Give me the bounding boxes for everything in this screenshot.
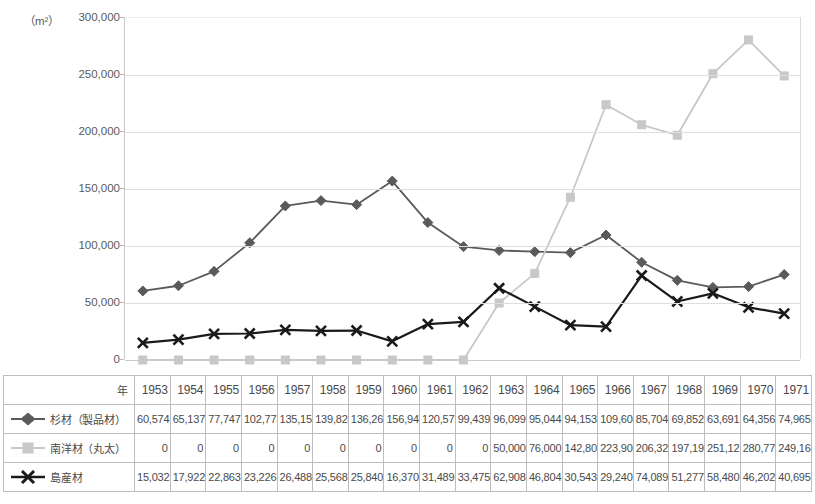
value-cell: 74,089: [633, 463, 669, 492]
y-tick-label: 150,000: [8, 182, 120, 194]
year-cell: 1956: [241, 376, 277, 405]
data-point-diamond: [352, 200, 362, 210]
value-cell: 65,137: [170, 405, 206, 434]
year-cell: 1961: [420, 376, 456, 405]
data-point-square: [566, 193, 574, 201]
series-0: [138, 176, 789, 296]
value-cell: 46,804: [526, 463, 562, 492]
table-row: 杉材（製品材）60,57465,13777,747102,773135,1551…: [4, 405, 812, 434]
year-cell: 1957: [277, 376, 313, 405]
y-axis: 050,000100,000150,000200,000250,000300,0…: [0, 17, 120, 359]
year-cell: 1968: [669, 376, 705, 405]
value-cell: 139,820: [313, 405, 349, 434]
data-point-diamond: [672, 275, 682, 285]
data-point-cross: [637, 271, 647, 281]
data-point-square: [531, 269, 539, 277]
value-cell: 99,439: [455, 405, 491, 434]
data-point-diamond: [565, 248, 575, 258]
y-tick-label: 250,000: [8, 68, 120, 80]
value-cell: 51,277: [669, 463, 705, 492]
value-cell: 63,691: [705, 405, 741, 434]
value-cell: 0: [135, 434, 171, 463]
value-cell: 40,695: [776, 463, 812, 492]
value-cell: 77,747: [206, 405, 242, 434]
value-cell: 223,906: [598, 434, 634, 463]
value-cell: 50,000: [491, 434, 527, 463]
value-cell: 69,852: [669, 405, 705, 434]
value-cell: 96,099: [491, 405, 527, 434]
value-cell: 29,240: [598, 463, 634, 492]
value-cell: 0: [384, 434, 420, 463]
year-cell: 1966: [598, 376, 634, 405]
gridline: [125, 360, 800, 361]
value-cell: 22,863: [206, 463, 242, 492]
value-cell: 0: [348, 434, 384, 463]
value-cell: 31,489: [420, 463, 456, 492]
value-cell: 16,370: [384, 463, 420, 492]
y-tick-label: 50,000: [8, 296, 120, 308]
year-cell: 1964: [526, 376, 562, 405]
value-cell: 74,965: [776, 405, 812, 434]
value-cell: 0: [277, 434, 313, 463]
value-cell: 0: [170, 434, 206, 463]
value-cell: 120,572: [420, 405, 456, 434]
data-point-diamond: [316, 196, 326, 206]
y-tick-label: 0: [8, 353, 120, 365]
value-cell: 30,543: [562, 463, 598, 492]
series-1: [139, 36, 788, 364]
legend-marker-cross: [10, 470, 46, 484]
series-2: [138, 271, 789, 348]
series-line: [143, 276, 784, 343]
line-chart: （m²） 050,000100,000150,000200,000250,000…: [0, 0, 815, 372]
series-label: 島産材: [50, 469, 82, 485]
legend-marker-square: [10, 441, 46, 455]
gridline: [125, 246, 800, 247]
value-cell: 0: [420, 434, 456, 463]
value-cell: 0: [313, 434, 349, 463]
row-header-year: 年: [4, 376, 135, 405]
data-table: 年195319541955195619571958195919601961196…: [3, 375, 812, 492]
y-tick-label: 300,000: [8, 11, 120, 23]
value-cell: 136,262: [348, 405, 384, 434]
year-cell: 1965: [562, 376, 598, 405]
chart-page: （m²） 050,000100,000150,000200,000250,000…: [0, 0, 815, 504]
year-cell: 1960: [384, 376, 420, 405]
data-point-square: [638, 121, 646, 129]
y-tick-label: 100,000: [8, 239, 120, 251]
data-point-square: [745, 36, 753, 44]
data-point-diamond: [138, 286, 148, 296]
series-line: [143, 181, 784, 291]
row-header-0: 杉材（製品材）: [4, 405, 135, 434]
value-cell: 64,356: [740, 405, 776, 434]
year-cell: 1970: [740, 376, 776, 405]
data-point-cross: [494, 283, 504, 293]
value-cell: 62,908: [491, 463, 527, 492]
year-cell: 1955: [206, 376, 242, 405]
plot-area: [124, 17, 801, 359]
row-header-1: 南洋材（丸太）: [4, 434, 135, 463]
value-cell: 280,775: [740, 434, 776, 463]
year-cell: 1963: [491, 376, 527, 405]
value-cell: 15,032: [135, 463, 171, 492]
value-cell: 94,153: [562, 405, 598, 434]
year-cell: 1959: [348, 376, 384, 405]
year-cell: 1971: [776, 376, 812, 405]
year-cell: 1967: [633, 376, 669, 405]
value-cell: 60,574: [135, 405, 171, 434]
data-point-diamond: [744, 282, 754, 292]
table-row: 南洋材（丸太）000000000050,00076,000142,802223,…: [4, 434, 812, 463]
value-cell: 46,202: [740, 463, 776, 492]
gridline: [125, 75, 800, 76]
row-header-2: 島産材: [4, 463, 135, 492]
value-cell: 0: [206, 434, 242, 463]
value-cell: 23,226: [241, 463, 277, 492]
value-cell: 85,704: [633, 405, 669, 434]
series-label: 南洋材（丸太）: [50, 440, 126, 456]
data-point-diamond: [173, 281, 183, 291]
value-cell: 102,773: [241, 405, 277, 434]
value-cell: 206,322: [633, 434, 669, 463]
data-point-diamond: [530, 247, 540, 257]
gridline: [125, 132, 800, 133]
gridline: [125, 303, 800, 304]
table-row-year: 年195319541955195619571958195919601961196…: [4, 376, 812, 405]
